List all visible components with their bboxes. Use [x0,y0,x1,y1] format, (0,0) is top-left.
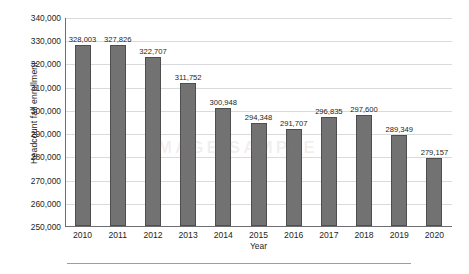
x-axis-tick-label: 2013 [168,230,208,240]
y-axis-tick-label: 280,000 [5,152,61,162]
x-axis-tick-label: 2010 [63,230,103,240]
bar [286,129,302,226]
bar [391,135,407,226]
bar-value-label: 289,349 [371,125,427,134]
x-axis-tick-label: 2011 [98,230,138,240]
x-axis-title: Year [65,241,452,251]
x-axis-tick-label: 2015 [239,230,279,240]
bar [145,57,161,226]
y-axis-tick-label: 310,000 [5,83,61,93]
x-axis-tick-label: 2017 [309,230,349,240]
y-axis-tick-labels: 340,000330,000320,000310,000300,000290,0… [0,18,61,227]
y-axis-tick-label: 320,000 [5,59,61,69]
bar-value-label: 300,948 [195,98,251,107]
bar-value-label: 327,826 [90,35,146,44]
y-axis-tick-label: 290,000 [5,129,61,139]
bar [426,158,442,226]
bar [251,123,267,226]
plot-area: 328,003327,826322,707311,752300,948294,3… [65,18,452,227]
bar [110,45,126,226]
bar [356,115,372,226]
gridline [66,18,452,19]
bar [75,45,91,226]
x-axis-tick-label: 2019 [379,230,419,240]
y-axis-tick-label: 250,000 [5,222,61,232]
bar-value-label: 311,752 [160,73,216,82]
x-axis-line [65,226,452,227]
bar-chart-figure: Headcount fall enrollment 340,000330,000… [0,0,469,274]
x-axis-tick-label: 2020 [414,230,454,240]
y-axis-line [65,18,66,227]
y-axis-tick-label: 260,000 [5,199,61,209]
bar [215,108,231,226]
y-axis-tick-label: 340,000 [5,13,61,23]
footer-divider [67,263,411,264]
bar [180,83,196,226]
x-axis-tick-label: 2014 [203,230,243,240]
x-axis-tick-label: 2012 [133,230,173,240]
bar-value-label: 291,707 [266,119,322,128]
y-axis-tick-label: 300,000 [5,106,61,116]
y-axis-tick-label: 270,000 [5,176,61,186]
bar [321,117,337,226]
y-axis-tick-label: 330,000 [5,36,61,46]
bar-value-label: 297,600 [336,105,392,114]
bar-value-label: 322,707 [125,47,181,56]
bar-value-label: 279,157 [406,148,462,157]
x-axis-tick-label: 2018 [344,230,384,240]
x-axis-tick-label: 2016 [274,230,314,240]
